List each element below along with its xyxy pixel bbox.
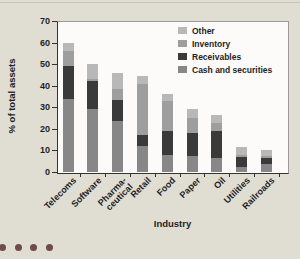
bar-utilities bbox=[236, 147, 247, 172]
segment-inventory bbox=[63, 51, 74, 66]
y-tick-label: 10 bbox=[28, 145, 50, 155]
segment-other bbox=[63, 43, 74, 52]
legend: OtherInventoryReceivablesCash and securi… bbox=[178, 24, 272, 76]
decorative-top-line bbox=[0, 2, 300, 3]
segment-receivables bbox=[63, 66, 74, 98]
x-tick-label-retail: Retail bbox=[129, 176, 152, 199]
dot-icon bbox=[0, 244, 6, 251]
y-tick-mark bbox=[52, 21, 57, 22]
bar-retail bbox=[137, 76, 148, 172]
y-axis-title: % of total assets bbox=[6, 36, 17, 156]
segment-cash-and-securities bbox=[236, 167, 247, 172]
x-tick-mark bbox=[180, 173, 181, 177]
legend-label: Cash and securities bbox=[192, 65, 272, 75]
bar-pharma-ceutical bbox=[112, 73, 123, 172]
dot-icon bbox=[46, 244, 53, 251]
y-tick-mark bbox=[52, 172, 57, 173]
legend-label: Receivables bbox=[192, 52, 241, 62]
page-background: % of total assets 010203040506070 Teleco… bbox=[0, 0, 300, 259]
segment-cash-and-securities bbox=[112, 121, 123, 172]
segment-receivables bbox=[137, 135, 148, 146]
segment-other bbox=[187, 109, 198, 118]
y-tick-mark bbox=[52, 150, 57, 151]
y-tick-label: 70 bbox=[28, 16, 50, 26]
segment-cash-and-securities bbox=[261, 164, 272, 172]
y-tick-label: 30 bbox=[28, 102, 50, 112]
segment-cash-and-securities bbox=[187, 156, 198, 172]
x-tick-label-paper: Paper bbox=[178, 176, 202, 200]
segment-other bbox=[112, 73, 123, 89]
x-axis-title: Industry bbox=[57, 218, 288, 229]
legend-swatch-icon bbox=[178, 66, 187, 73]
legend-swatch-icon bbox=[178, 53, 187, 60]
legend-swatch-icon bbox=[178, 27, 187, 34]
segment-inventory bbox=[211, 123, 222, 131]
segment-cash-and-securities bbox=[63, 99, 74, 172]
y-tick-label: 60 bbox=[28, 38, 50, 48]
segment-inventory bbox=[162, 101, 173, 131]
x-tick-mark bbox=[130, 173, 131, 177]
legend-swatch-icon bbox=[178, 40, 187, 47]
legend-label: Other bbox=[192, 26, 215, 36]
bar-railroads bbox=[261, 150, 272, 172]
segment-receivables bbox=[112, 100, 123, 122]
x-tick-label-food: Food bbox=[156, 176, 178, 198]
x-tick-mark bbox=[229, 173, 230, 177]
segment-other bbox=[236, 147, 247, 155]
dot-icon bbox=[15, 244, 22, 251]
segment-receivables bbox=[162, 131, 173, 155]
segment-cash-and-securities bbox=[87, 109, 98, 172]
pagination-dots bbox=[0, 244, 53, 251]
segment-cash-and-securities bbox=[211, 158, 222, 172]
segment-other bbox=[211, 115, 222, 124]
segment-receivables bbox=[187, 133, 198, 156]
segment-inventory bbox=[187, 118, 198, 133]
y-tick-mark bbox=[52, 86, 57, 87]
segment-inventory bbox=[137, 84, 148, 136]
x-tick-label-oil: Oil bbox=[212, 176, 227, 191]
x-tick-mark bbox=[204, 173, 205, 177]
segment-other bbox=[137, 76, 148, 84]
bar-paper bbox=[187, 109, 198, 172]
legend-label: Inventory bbox=[192, 39, 230, 49]
segment-inventory bbox=[112, 89, 123, 100]
segment-receivables bbox=[87, 81, 98, 109]
x-tick-mark bbox=[155, 173, 156, 177]
x-tick-mark bbox=[105, 173, 106, 177]
y-tick-mark bbox=[52, 64, 57, 65]
y-tick-label: 40 bbox=[28, 81, 50, 91]
legend-item: Inventory bbox=[178, 37, 272, 50]
bar-food bbox=[162, 94, 173, 172]
legend-item: Cash and securities bbox=[178, 63, 272, 76]
segment-other bbox=[87, 64, 98, 79]
y-tick-label: 50 bbox=[28, 59, 50, 69]
y-tick-mark bbox=[52, 107, 57, 108]
bar-telecoms bbox=[63, 43, 74, 172]
dot-icon bbox=[30, 244, 37, 251]
segment-receivables bbox=[211, 131, 222, 158]
segment-receivables bbox=[236, 157, 247, 167]
x-tick-mark bbox=[80, 173, 81, 177]
y-tick-label: 20 bbox=[28, 124, 50, 134]
legend-item: Other bbox=[178, 24, 272, 37]
x-tick-mark bbox=[254, 173, 255, 177]
legend-item: Receivables bbox=[178, 50, 272, 63]
bar-software bbox=[87, 64, 98, 172]
y-tick-mark bbox=[52, 43, 57, 44]
y-tick-mark bbox=[52, 129, 57, 130]
bar-oil bbox=[211, 115, 222, 172]
segment-cash-and-securities bbox=[162, 155, 173, 172]
x-tick-mark bbox=[279, 173, 280, 177]
y-tick-label: 0 bbox=[28, 167, 50, 177]
segment-cash-and-securities bbox=[137, 146, 148, 172]
